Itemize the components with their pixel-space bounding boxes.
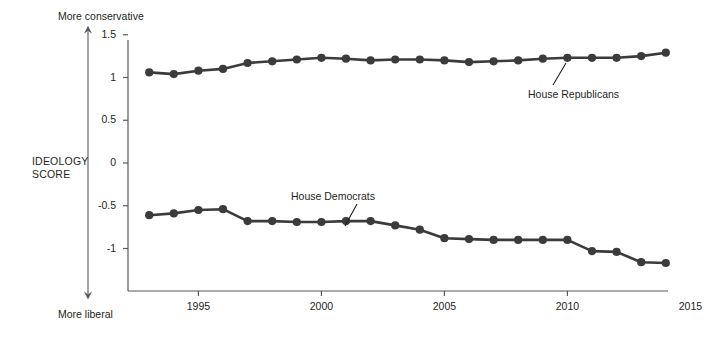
y-tick-label: -0.5 [68,199,116,211]
data-series [145,49,670,268]
more-liberal-label: More liberal [58,308,113,321]
y-tick-label: 0 [68,156,116,168]
x-tick-label: 2015 [660,300,707,312]
x-tick-label: 2010 [537,300,597,312]
x-tick-label: 2005 [414,300,474,312]
y-tick-label: 0.5 [68,113,116,125]
series-label-democrats: House Democrats [291,190,375,203]
x-tick-label: 1995 [168,300,228,312]
more-conservative-label: More conservative [58,10,144,23]
x-tick-label: 2000 [291,300,351,312]
y-tick-label: -1 [68,242,116,254]
series-label-republicans: House Republicans [528,88,619,101]
y-tick-label: 1.5 [68,28,116,40]
axes [84,26,674,300]
y-axis-title-line-2: SCORE [32,168,88,181]
y-tick-label: 1 [68,71,116,83]
